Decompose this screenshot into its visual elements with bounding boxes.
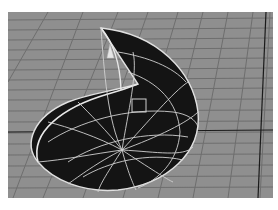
3d-viewport[interactable]: Perspective viewport [8, 12, 273, 198]
viewport-canvas[interactable] [8, 12, 273, 198]
hemisphere-object[interactable] [31, 28, 198, 192]
